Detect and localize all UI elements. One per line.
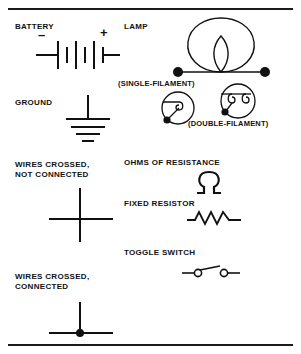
toggle-switch-label: TOGGLE SWITCH (124, 248, 195, 258)
wires-crossed-not-connected-label-line2: NOT CONNECTED (15, 170, 89, 180)
wires-crossed-connected-label-line1: WIRES CROSSED, (15, 272, 89, 282)
battery-plus-sign: + (100, 28, 108, 38)
fixed-resistor-symbol (185, 208, 245, 228)
toggle-switch-symbol (180, 260, 244, 280)
battery-label: BATTERY (15, 22, 54, 32)
top-divider-rule (8, 8, 293, 10)
bottom-divider-rule (8, 344, 293, 346)
wires-crossed-connected-label-line2: CONNECTED (15, 282, 68, 292)
wires-crossed-not-connected-symbol (45, 186, 115, 244)
ground-symbol (62, 93, 114, 145)
ohms-of-resistance-label: OHMS OF RESISTANCE (124, 158, 220, 168)
ground-label: GROUND (15, 98, 52, 108)
lamp-label: LAMP (124, 22, 148, 32)
battery-minus-sign: – (38, 30, 46, 40)
double-filament-caption: (DOUBLE-FILAMENT) (188, 119, 268, 129)
symbols-chart-sheet: BATTERY – + GROUND (0, 0, 301, 354)
lamp-symbol (164, 16, 279, 78)
double-filament-lamp-symbol (216, 81, 260, 123)
wires-crossed-connected-symbol (45, 300, 115, 342)
wires-crossed-not-connected-label-line1: WIRES CROSSED, (15, 160, 89, 170)
battery-symbol (34, 33, 122, 69)
ohm-symbol (192, 168, 226, 196)
